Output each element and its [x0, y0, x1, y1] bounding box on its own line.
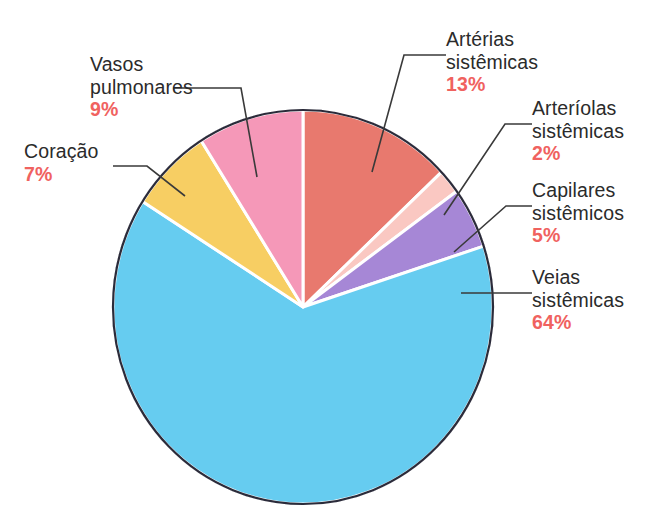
- pie-chart-figure: Artérias sistêmicas 13% Arteríolas sistê…: [0, 0, 659, 526]
- label-arteriolas-percent: 2%: [532, 142, 624, 165]
- label-arterias-sistemicas: Artérias sistêmicas 13%: [446, 28, 538, 96]
- label-vasos-line1: Vasos: [90, 53, 193, 76]
- label-capilares-line1: Capilares: [532, 179, 624, 202]
- label-vasos-line2: pulmonares: [90, 76, 193, 99]
- label-vasos-pulmonares: Vasos pulmonares 9%: [90, 53, 193, 121]
- label-capilares-sistemicos: Capilares sistêmicos 5%: [532, 179, 624, 247]
- label-coracao-percent: 7%: [24, 163, 98, 186]
- label-veias-line2: sistêmicas: [532, 289, 624, 312]
- label-capilares-line2: sistêmicos: [532, 202, 624, 225]
- label-arteriolas-line2: sistêmicas: [532, 120, 624, 143]
- label-veias-sistemicas: Veias sistêmicas 64%: [532, 266, 624, 334]
- label-veias-line1: Veias: [532, 266, 624, 289]
- label-arterias-percent: 13%: [446, 73, 538, 96]
- label-arteriolas-line1: Arteríolas: [532, 97, 624, 120]
- label-veias-percent: 64%: [532, 311, 624, 334]
- label-arteriolas-sistemicas: Arteríolas sistêmicas 2%: [532, 97, 624, 165]
- label-arterias-line1: Artérias: [446, 28, 538, 51]
- label-coracao: Coração 7%: [24, 140, 98, 185]
- pie-slices-group: [113, 110, 493, 504]
- label-vasos-percent: 9%: [90, 98, 193, 121]
- label-arterias-line2: sistêmicas: [446, 51, 538, 74]
- label-capilares-percent: 5%: [532, 224, 624, 247]
- label-coracao-line1: Coração: [24, 140, 98, 163]
